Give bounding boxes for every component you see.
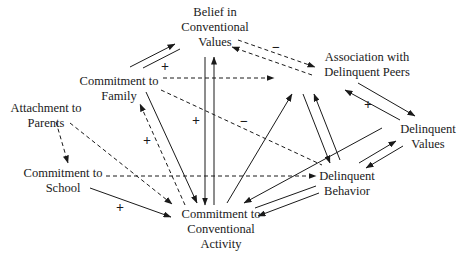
edge-activity-to-family-arrow bbox=[140, 104, 185, 205]
node-label-line: Family bbox=[80, 89, 159, 104]
node-label-line: Delinquent bbox=[400, 122, 456, 137]
edge-activity-to-assoc-arrow bbox=[227, 94, 292, 203]
node-label-line: Conventional bbox=[182, 222, 261, 237]
edge-dbehavior-to-assoc-arrow bbox=[314, 94, 340, 160]
node-label-line: School bbox=[24, 181, 103, 196]
node-dvalues: DelinquentValues bbox=[400, 122, 456, 152]
edge-dbehavior-to-dvalues-arrow bbox=[359, 141, 396, 163]
edge-family-to-activity-arrow bbox=[146, 92, 197, 203]
node-label-line: Values bbox=[400, 137, 456, 152]
node-label-line: Commitment to bbox=[182, 207, 261, 222]
node-dbehavior: DelinquentBehavior bbox=[319, 169, 375, 199]
node-label-line: Values bbox=[181, 35, 248, 50]
positive-sign: + bbox=[192, 114, 200, 128]
edge-assoc-to-dbehavior-arrow bbox=[303, 94, 330, 163]
node-family: Commitment toFamily bbox=[80, 74, 159, 104]
node-label-line: Association with bbox=[324, 50, 410, 65]
node-label-line: Activity bbox=[182, 237, 261, 252]
edge-dvalues-to-dbehavior-arrow bbox=[366, 146, 403, 168]
node-parents: Attachment toParents bbox=[10, 101, 81, 131]
positive-sign: + bbox=[116, 201, 124, 215]
node-label-line: Behavior bbox=[319, 184, 375, 199]
node-activity: Commitment toConventionalActivity bbox=[182, 207, 261, 252]
node-label-line: Commitment to bbox=[24, 166, 103, 181]
node-school: Commitment toSchool bbox=[24, 166, 103, 196]
positive-sign: + bbox=[364, 98, 372, 112]
node-label-line: Parents bbox=[10, 116, 81, 131]
node-belief: Belief inConventionalValues bbox=[181, 5, 248, 50]
node-assoc: Association withDelinquent Peers bbox=[324, 50, 410, 80]
edge-dvalues-to-assoc-arrow bbox=[345, 90, 400, 120]
positive-sign: + bbox=[143, 134, 151, 148]
node-label-line: Commitment to bbox=[80, 74, 159, 89]
negative-sign: − bbox=[272, 41, 280, 55]
negative-sign: − bbox=[240, 115, 248, 129]
edge-dbehavior-to-activity-line bbox=[255, 186, 316, 208]
positive-sign: + bbox=[161, 60, 169, 74]
node-label-line: Delinquent Peers bbox=[324, 65, 410, 80]
edge-dbehavior-to-activity-arrow bbox=[258, 193, 319, 216]
node-label-line: Conventional bbox=[181, 20, 248, 35]
node-label-line: Belief in bbox=[181, 5, 248, 20]
node-label-line: Attachment to bbox=[10, 101, 81, 116]
node-label-line: Delinquent bbox=[319, 169, 375, 184]
path-diagram: Belief inConventionalValuesAssociation w… bbox=[0, 0, 466, 256]
